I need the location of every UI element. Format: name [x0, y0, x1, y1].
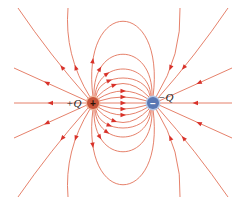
- positive-charge-label: +Q: [66, 97, 81, 109]
- plus-sign-icon: +: [90, 98, 96, 109]
- field-line-left-lower-2: [18, 108, 88, 197]
- negative-charge-label: −Q: [158, 91, 173, 103]
- arrow-icon: [196, 80, 203, 86]
- field-line-inner-bot-4: [96, 110, 150, 128]
- minus-sign-icon: −: [150, 98, 156, 109]
- arrow-icon: [97, 134, 104, 141]
- arrow-icon: [106, 77, 113, 83]
- field-line-left-upper-3: [67, 8, 90, 97]
- arrow-icon: [73, 135, 79, 142]
- arrow-icon: [120, 113, 126, 117]
- arrow-icon: [73, 64, 79, 71]
- arrow-icon: [97, 65, 104, 72]
- field-line-right-lower-2: [158, 108, 228, 197]
- arrow-icon: [111, 82, 118, 88]
- arrow-icon: [193, 101, 199, 105]
- arrow-icon: [106, 122, 113, 128]
- arrow-icon: [48, 101, 54, 105]
- field-line-right-upper-3: [156, 8, 180, 97]
- arrow-icon: [120, 107, 126, 111]
- arrow-icon: [111, 118, 118, 124]
- arrow-icon: [167, 134, 173, 141]
- arrow-icon: [120, 89, 126, 93]
- field-line-right-lower-3: [156, 109, 180, 197]
- arrow-icon: [196, 120, 203, 126]
- arrow-icon: [43, 120, 50, 126]
- field-line-right-upper-2: [158, 8, 228, 98]
- dipole-field-diagram: ++Q−−Q: [0, 0, 244, 210]
- arrow-icon: [167, 65, 173, 72]
- arrow-icon: [120, 95, 126, 99]
- arrow-icon: [43, 80, 50, 86]
- field-line-left-upper-2: [18, 8, 88, 98]
- arrow-icon: [121, 101, 127, 105]
- field-line-inner-top-4: [96, 78, 150, 96]
- field-line-left-lower-3: [67, 109, 90, 197]
